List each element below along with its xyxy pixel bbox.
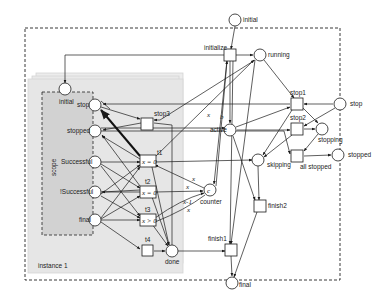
arc-label-x-t2: x [185,183,190,191]
label-stop2: stop2 [290,114,306,122]
label-stop3: stop3 [154,110,170,118]
instance-place-stopped[interactable] [89,125,101,137]
label-skipping: skipping [267,161,291,169]
place-final[interactable] [226,277,238,289]
label-instance-successful: Successful [61,158,93,165]
label-t1: t1 [157,149,163,156]
place-stopping[interactable] [316,123,328,135]
guard-t2: x = 0 [141,189,157,197]
label-finish1: finish1 [208,235,227,242]
scope-label: scope [50,158,58,176]
label-initial: initial [243,16,258,23]
label-done: done [165,258,180,265]
label-instance-stopped: stopped [67,127,91,135]
transition-finish1[interactable] [225,244,237,256]
label-active: active [210,126,227,133]
label-t2: t2 [145,178,151,185]
label-stopped: stopped [348,151,372,159]
place-stop[interactable] [334,98,346,110]
guard-t3: x > 0 [141,217,157,225]
label-all-stopped: all stopped [300,163,332,171]
transition-all-stopped[interactable] [291,150,303,162]
label-finish2: finish2 [268,202,287,209]
place-running[interactable] [254,49,266,61]
label-final: final [239,281,251,288]
transition-stop2[interactable] [291,123,303,135]
label-t4: t4 [145,236,151,243]
transition-stop1[interactable] [291,98,303,110]
label-stop: stop [350,100,363,108]
arc-label-x-minus-1: x-1 [182,198,192,206]
arc-label-x-t1: x [191,175,196,183]
instance-place-initial[interactable] [59,83,71,95]
label-instance-initial: initial [59,98,74,105]
label-counter: counter [200,198,223,205]
place-initial[interactable] [229,14,241,26]
instance-place-stop[interactable] [89,99,101,111]
label-stop1: stop1 [290,89,306,97]
label-initialize: initialize [204,44,228,51]
label-t3: t3 [145,206,151,213]
transition-stop3[interactable] [141,118,153,130]
label-instance-stop: stop [77,101,90,109]
label-running: running [268,51,290,59]
arc-label-b: b [220,113,224,121]
transition-t4[interactable] [142,245,153,256]
arc-label-x-t3: x [186,206,191,214]
place-stopped[interactable] [332,149,344,161]
label-instance-final: final [79,216,91,223]
label-instance-not-successful: !Successful [60,188,94,195]
instance-label: instance 1 [38,262,68,269]
label-stopping: stopping [318,136,343,144]
transition-finish2[interactable] [254,200,266,212]
place-skipping[interactable] [252,154,264,166]
guard-t1: x = 0 [141,158,157,166]
place-done[interactable] [166,245,178,257]
arc-label-x: x [206,111,211,119]
petri-net-diagram: scope instance 1 [0,0,387,302]
